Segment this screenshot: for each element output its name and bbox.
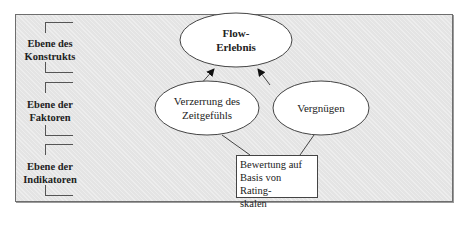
node-factor-right-label: Vergnügen	[281, 101, 361, 115]
edge-indicator-right	[300, 135, 314, 155]
node-label-line: Vergnügen	[281, 101, 361, 115]
node-label-line: Verzerrung des	[160, 94, 254, 108]
node-label-line: Zeitgefühls	[160, 108, 254, 122]
node-indicator-box: Bewertung auf Basis von Rating- skalen	[236, 155, 318, 198]
node-construct-label: Flow- Erlebnis	[196, 26, 276, 54]
node-label-line: skalen	[240, 197, 314, 210]
edge-indicator-left	[222, 135, 250, 155]
node-label-line: Bewertung auf	[240, 158, 314, 171]
node-label-line: Basis von Rating-	[240, 171, 314, 197]
node-label-line: Flow-	[196, 26, 276, 40]
node-factor-left-label: Verzerrung des Zeitgefühls	[160, 94, 254, 122]
node-label-line: Erlebnis	[196, 40, 276, 54]
arrow-right-to-construct	[258, 69, 270, 85]
